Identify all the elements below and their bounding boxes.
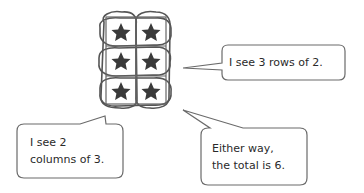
bubble-columns-line-1: I see 2 [30,134,104,151]
bubble-rows-line-1: I see 3 rows of 2. [229,54,323,71]
row-loop-2 [99,47,171,76]
bubble-rows-text: I see 3 rows of 2. [229,54,323,71]
bubble-columns-text: I see 2 columns of 3. [30,134,104,168]
bubble-total-text: Either way, the total is 6. [212,140,285,174]
bubble-columns-line-2: columns of 3. [30,151,104,168]
star-array [99,11,171,108]
star-icon [112,52,131,70]
star-icon [142,23,161,41]
star-icon [142,52,161,70]
bubble-total-line-1: Either way, [212,140,285,157]
star-icon [112,82,131,100]
star-icon [142,82,161,100]
star-icon [112,23,131,41]
bubble-total-line-2: the total is 6. [212,157,285,174]
